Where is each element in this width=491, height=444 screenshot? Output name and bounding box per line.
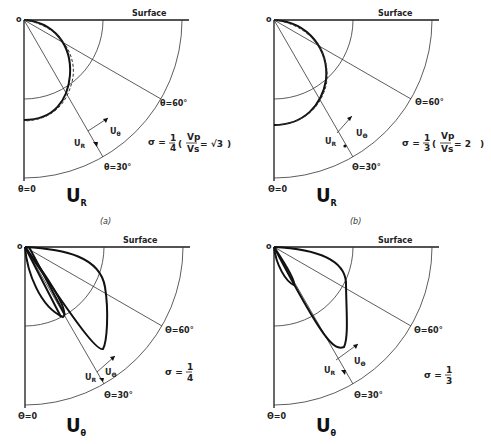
sigma-formula: σ = [148, 137, 166, 147]
theta0-label: Θ=0 [268, 185, 288, 194]
inner-arc [274, 20, 353, 99]
inner-arc [24, 20, 103, 99]
ur-label: UR [324, 366, 336, 376]
surface-label: Surface [132, 9, 167, 18]
sigma-numerator: 1 [446, 365, 452, 375]
ratio-numerator: Vp [441, 131, 455, 141]
sigma-denominator: 3 [424, 143, 430, 153]
ratio-value: = √3 [200, 139, 223, 149]
utheta-label: Uθ [110, 127, 121, 137]
sigma-numerator: 1 [187, 362, 193, 372]
ray-60 [24, 20, 161, 99]
ray-30 [24, 20, 103, 157]
ur-pattern-curve [274, 20, 326, 125]
sigma-numerator: 1 [424, 133, 430, 143]
theta0-label: θ=0 [18, 185, 36, 194]
inner-arc [274, 247, 353, 326]
arrowhead-icon [353, 344, 358, 349]
paren-close: ) [227, 139, 231, 149]
theta30-label: Θ=30° [104, 391, 133, 400]
ratio-denominator: Vs [187, 144, 199, 154]
component-label: UR [66, 183, 88, 208]
theta60-label: Θ=60° [415, 98, 444, 107]
arrowhead-icon [341, 370, 346, 375]
utheta-lobe-large [274, 247, 347, 348]
panel-d: o Surface UΘ UR Θ=60° Θ=30° Θ=0 Uθ σ = 1… [266, 236, 452, 438]
sigma-numerator: 1 [170, 133, 176, 143]
theta30-label: θ=30° [104, 163, 131, 172]
panel-c: o Surface UΘ UR Θ=60° Θ=30° Θ=0 Uθ σ = 1… [17, 236, 194, 438]
sigma-formula: σ = [424, 370, 442, 380]
origin-label: o [16, 15, 22, 24]
ur-label: UR [74, 139, 86, 149]
theta60-label: Θ=60° [165, 326, 194, 335]
ray-60 [274, 20, 411, 99]
ur-label: UR [325, 137, 337, 147]
theta30-label: Θ=30° [352, 163, 381, 172]
arrowhead-icon [99, 378, 104, 382]
ur-pattern-dashed [24, 20, 73, 121]
origin-label: o [266, 242, 272, 251]
theta0-label: Θ=0 [267, 412, 287, 421]
theta0-label: Θ=0 [18, 412, 38, 421]
utheta-label: UΘ [105, 368, 117, 378]
theta30-label: Θ=30° [354, 391, 383, 400]
panel-a: o Surface Uθ UR θ=60° θ=30° θ=0 UR σ = 1… [16, 9, 231, 208]
panel-b: o Surface UΘ UR Θ=60° Θ=30° Θ=0 UR σ = 1… [266, 9, 484, 208]
component-label: UR [316, 183, 338, 208]
sigma-denominator: 4 [170, 143, 176, 153]
utheta-label: UΘ [356, 129, 368, 139]
sigma-formula: σ = [402, 138, 420, 148]
surface-label: Surface [378, 9, 413, 18]
outer-arc [25, 247, 183, 405]
origin-label: o [266, 15, 272, 24]
ratio-value: = 2 [454, 139, 471, 149]
theta60-label: θ=60° [160, 99, 187, 108]
surface-label: Surface [378, 236, 413, 245]
component-label: Uθ [316, 413, 337, 438]
origin-label: o [17, 242, 23, 251]
outer-arc [274, 20, 432, 178]
ratio-numerator: Vp [187, 132, 201, 142]
paren-open: ( [178, 139, 182, 149]
caption-a: (a) [100, 217, 111, 226]
sigma-formula: σ = [165, 367, 183, 377]
ur-pattern-curve [24, 20, 70, 120]
paren-open: ( [432, 139, 436, 149]
outer-arc [24, 20, 182, 178]
component-label: Uθ [66, 413, 87, 438]
paren-close: ) [480, 139, 484, 149]
surface-label: Surface [123, 236, 158, 245]
ratio-denominator: Vs [441, 144, 453, 154]
ray-30 [274, 20, 353, 157]
theta60-label: Θ=60° [414, 326, 443, 335]
sigma-denominator: 3 [446, 376, 452, 386]
ur-point-icon [343, 144, 346, 147]
sigma-denominator: 4 [187, 373, 193, 383]
outer-arc [274, 247, 432, 405]
caption-b: (b) [350, 217, 361, 226]
utheta-label: UΘ [354, 357, 366, 367]
ur-label: UR [85, 373, 97, 383]
